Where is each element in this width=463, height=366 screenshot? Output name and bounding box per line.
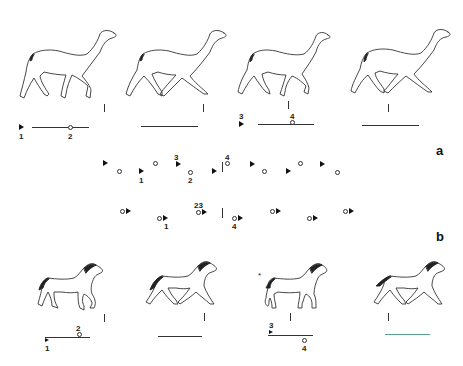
camel-figure-1 — [14, 26, 124, 101]
footfall-triangle — [126, 208, 131, 214]
footfall-triangle — [103, 160, 108, 166]
panel-label-b: b — [436, 229, 444, 244]
footfall-label: 1 — [45, 345, 49, 353]
midline-tick — [222, 208, 223, 218]
midline-tick — [222, 162, 223, 172]
footfall-triangle — [202, 209, 207, 215]
footfall-label: 3 — [269, 322, 273, 330]
footfall-circle — [298, 161, 303, 166]
ground-line — [45, 337, 90, 338]
footfall-triangle — [349, 208, 354, 214]
ground-line — [158, 336, 202, 337]
footfall-label: 1 — [139, 177, 143, 185]
footfall-triangle — [250, 161, 255, 167]
ground-line — [141, 126, 198, 127]
footfall-circle — [188, 170, 193, 175]
footfall-triangle — [238, 215, 243, 221]
footfall-triangle — [313, 215, 318, 221]
camel-figure-4 — [348, 26, 458, 101]
footfall-circle — [68, 125, 73, 130]
footfall-circle — [302, 338, 307, 343]
panel-label-a: a — [436, 143, 443, 158]
footfall-label: 4 — [232, 223, 236, 231]
footfall-circle — [270, 209, 275, 214]
horse-figure-1 — [34, 260, 109, 315]
footfall-triangle — [286, 168, 291, 174]
footfall-triangle — [212, 168, 217, 174]
footfall-circle — [157, 216, 162, 221]
footfall-circle — [307, 216, 312, 221]
scale-tick — [290, 313, 291, 321]
footfall-triangle — [269, 330, 273, 334]
footfall-label: 3 — [239, 113, 243, 121]
footfall-circle — [225, 161, 230, 166]
scale-tick — [104, 104, 105, 112]
ground-line — [258, 124, 314, 125]
footfall-triangle — [276, 208, 281, 214]
footfall-circle — [262, 169, 267, 174]
horse-figure-4 — [372, 258, 452, 313]
footfall-label: 1 — [19, 133, 23, 141]
ground-line — [385, 334, 430, 335]
ground-line — [268, 335, 313, 336]
footfall-label: 2 — [68, 133, 72, 141]
footfall-circle — [290, 120, 295, 125]
footfall-circle — [120, 209, 125, 214]
asterisk-mark: * — [258, 272, 261, 280]
horse-figure-2 — [144, 258, 224, 313]
scale-tick — [388, 104, 389, 112]
footfall-triangle — [176, 161, 181, 167]
footfall-label: 1 — [164, 223, 168, 231]
footfall-circle — [153, 161, 158, 166]
scale-tick — [104, 314, 105, 322]
footfall-triangle — [239, 121, 244, 127]
footfall-circle — [335, 170, 340, 175]
scale-tick — [388, 313, 389, 321]
footfall-triangle — [45, 338, 49, 342]
footfall-circle — [343, 209, 348, 214]
scale-tick — [288, 101, 289, 109]
footfall-circle — [232, 216, 237, 221]
footfall-circle — [77, 332, 82, 337]
footfall-triangle — [139, 168, 144, 174]
footfall-triangle — [320, 161, 325, 167]
camel-figure-3 — [236, 26, 346, 101]
footfall-circle — [196, 210, 201, 215]
ground-line — [362, 125, 419, 126]
footfall-triangle — [19, 124, 24, 130]
footfall-circle — [117, 169, 122, 174]
camel-figure-2 — [124, 26, 234, 101]
ground-line — [32, 127, 89, 128]
horse-figure-3 — [260, 260, 335, 315]
footfall-triangle — [163, 215, 168, 221]
scale-tick — [204, 313, 205, 321]
scale-tick — [203, 104, 204, 112]
footfall-label: 2 — [188, 177, 192, 185]
footfall-label: 4 — [302, 345, 306, 353]
